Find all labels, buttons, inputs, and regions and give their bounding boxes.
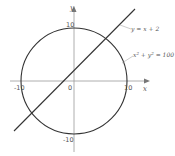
line-label-leader (120, 25, 131, 29)
x-tick-10: 10 (124, 84, 132, 92)
circle-equation-label: x2 + y2 = 100 (133, 51, 174, 60)
y-tick-neg10: -10 (63, 136, 74, 144)
circle-label-leader (122, 56, 133, 63)
y-tick-10: 10 (66, 21, 74, 29)
x-axis-arrow-icon (144, 79, 150, 84)
line-equation-label: y = x + 2 (130, 25, 159, 33)
coordinate-diagram: y x 0 -10 10 10 -10 y = x + 2 x2 + y2 = … (0, 0, 175, 156)
x-tick-neg10: -10 (14, 84, 25, 92)
x-axis-label: x (143, 85, 147, 93)
origin-label: 0 (68, 84, 72, 92)
